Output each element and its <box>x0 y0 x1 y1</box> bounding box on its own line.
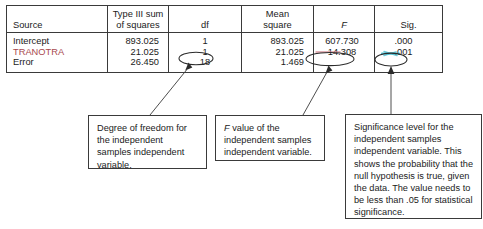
cell-mean-square-column: 893.025 21.025 1.469 <box>242 33 314 73</box>
cell-sig-column: .000 .001 <box>375 33 443 73</box>
column-header-mean-square-line1: Mean <box>242 9 313 19</box>
anova-results-table: Source Type III sum of squares df Mean s… <box>6 5 443 73</box>
table-header-row: Source Type III sum of squares df Mean s… <box>7 6 443 33</box>
f-value-tranotra: 14.308 <box>314 47 374 58</box>
callout-f-description: F value of the independent samples indep… <box>215 115 325 161</box>
column-header-f-label: F <box>341 20 347 30</box>
df-value-intercept: 1 <box>169 36 241 47</box>
cell-source-column: Intercept TRANOTRA Error <box>7 33 108 73</box>
table-header: Source Type III sum of squares df Mean s… <box>7 6 443 33</box>
type3-values-stack: 893.025 21.025 26.450 <box>108 36 168 68</box>
cell-df-column: 1 1 18 <box>169 33 242 73</box>
mean-square-value-error: 1.469 <box>242 57 313 68</box>
f-values-stack: 607.730 14.308 <box>314 36 374 57</box>
column-header-source-label: Source <box>13 20 42 30</box>
column-header-df: df <box>169 6 242 33</box>
column-header-df-label: df <box>201 20 209 30</box>
sig-value-tranotra: .001 <box>375 47 442 58</box>
callout-sig-description: Significance level for the independent s… <box>345 114 482 219</box>
column-header-f: F <box>314 6 375 33</box>
type3-value-tranotra: 21.025 <box>108 47 168 58</box>
callout-df-description: Degree of freedom for the independent sa… <box>88 115 207 169</box>
column-header-sig: Sig. <box>375 6 443 33</box>
column-header-mean-square-line2: square <box>242 20 313 30</box>
df-value-tranotra: 1 <box>169 47 241 58</box>
mean-square-value-tranotra: 21.025 <box>242 47 313 58</box>
column-header-type3-line2: of squares <box>108 20 168 30</box>
callout-sig-text: Significance level for the independent s… <box>354 122 473 217</box>
callout-df-text: Degree of freedom for the independent sa… <box>97 123 187 170</box>
df-value-error: 18 <box>169 57 241 68</box>
f-value-intercept: 607.730 <box>314 36 374 47</box>
type3-value-error: 26.450 <box>108 57 168 68</box>
table-body: Intercept TRANOTRA Error 893.025 21.025 … <box>7 33 443 73</box>
sig-values-stack: .000 .001 <box>375 36 442 57</box>
source-values-stack: Intercept TRANOTRA Error <box>7 36 107 68</box>
column-header-source: Source <box>7 6 108 33</box>
cell-f-column: 607.730 14.308 <box>314 33 375 73</box>
source-value-tranotra: TRANOTRA <box>7 47 107 58</box>
anova-output-figure: Source Type III sum of squares df Mean s… <box>0 0 483 229</box>
source-value-error: Error <box>7 57 107 68</box>
df-leader-line <box>150 70 187 115</box>
cell-type3-sum-of-squares-column: 893.025 21.025 26.450 <box>108 33 169 73</box>
column-header-mean-square: Mean square <box>242 6 314 33</box>
column-header-type3-line1: Type III sum <box>108 9 168 19</box>
mean-square-value-intercept: 893.025 <box>242 36 313 47</box>
type3-value-intercept: 893.025 <box>108 36 168 47</box>
f-leader-line <box>303 73 327 115</box>
table-row: Intercept TRANOTRA Error 893.025 21.025 … <box>7 33 443 73</box>
source-value-intercept: Intercept <box>7 36 107 47</box>
sig-value-intercept: .000 <box>375 36 442 47</box>
column-header-type3-sum-of-squares: Type III sum of squares <box>108 6 169 33</box>
mean-square-values-stack: 893.025 21.025 1.469 <box>242 36 313 68</box>
callout-f-text: value of the independent samples indepen… <box>224 123 312 157</box>
df-values-stack: 1 1 18 <box>169 36 241 68</box>
column-header-sig-label: Sig. <box>400 20 416 30</box>
